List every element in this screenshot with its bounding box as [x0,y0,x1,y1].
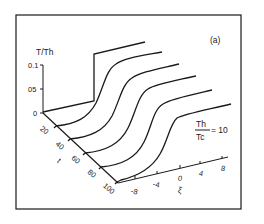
xi-axis [118,156,228,183]
y-tick-label: 05 [28,85,36,94]
y-tick-label: 0 [33,109,37,118]
t-tick-label: 20 [38,124,50,136]
t-tick-label: 100 [101,181,116,196]
figure-frame [16,15,241,209]
curve-t0 [43,42,145,112]
panel-label: (a) [210,35,221,45]
curve-t100 [117,104,231,182]
t-tick-labels: 20 40 60 80 100 [38,124,116,196]
ratio-annotation: Th Tc = 10 [195,119,228,142]
curve-t40 [70,64,179,139]
t-tick-label: 60 [70,153,82,165]
t-axis-label: t [55,157,63,166]
waterfall-chart: T/Th 0.1 05 0 20 40 60 80 100 t -8 -4 0 … [0,0,264,224]
y-axis-label: T/Th [36,47,54,57]
xi-tick-label: 4 [198,169,204,179]
t-tick-label: 40 [54,139,66,151]
xi-tick-label: 8 [220,164,226,174]
xi-axis-label: ξ [177,185,183,196]
xi-tick-label: -4 [152,179,160,189]
annotation-denominator: Tc [196,132,205,142]
y-axis [40,65,43,113]
annotation-numerator: Th [196,119,206,129]
y-tick-label: 0.1 [28,61,38,70]
t-tick-label: 80 [86,167,98,179]
xi-tick-label: -8 [130,186,138,196]
annotation-value: = 10 [211,125,228,135]
curve-t20 [56,52,162,126]
xi-tick-label: 0 [177,174,183,184]
